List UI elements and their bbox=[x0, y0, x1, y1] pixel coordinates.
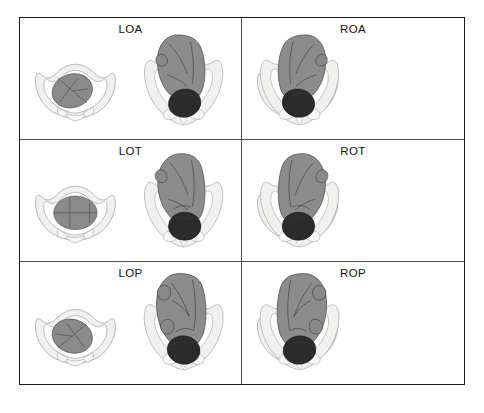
fetal-head-engaged bbox=[168, 212, 200, 240]
pelvic-inlet-view-lot bbox=[29, 171, 122, 248]
fetus-pelvis-diagram bbox=[124, 145, 239, 259]
panel-loa[interactable]: LOA bbox=[20, 18, 242, 140]
fetus-in-pelvis-view-loa bbox=[124, 23, 239, 137]
panel-roa[interactable]: ROA bbox=[242, 18, 464, 140]
pelvic-inlet-diagram bbox=[29, 294, 122, 372]
fetus-in-pelvis-view-lot bbox=[124, 145, 239, 259]
fetus-pelvis-diagram bbox=[244, 267, 359, 382]
pelvic-inlet-view-loa bbox=[29, 49, 122, 126]
fetal-head-inlet bbox=[54, 197, 97, 230]
fetus-pelvis-diagram bbox=[244, 145, 359, 259]
fetus-in-pelvis-view-rot bbox=[244, 145, 359, 259]
fetus-pelvis-diagram bbox=[244, 23, 359, 137]
pelvic-inlet-view-lop bbox=[29, 294, 122, 372]
pelvic-inlet-diagram bbox=[29, 49, 122, 126]
fetal-position-figure: LOA bbox=[19, 17, 465, 385]
fetus-in-pelvis-view-roa bbox=[244, 23, 359, 137]
fetus-in-pelvis-view-rop bbox=[244, 267, 359, 382]
fetus-pelvis-diagram bbox=[124, 23, 239, 137]
panel-rot[interactable]: ROT bbox=[242, 140, 464, 262]
panel-lop[interactable]: LOP bbox=[20, 262, 242, 384]
fetus-in-pelvis-view-lop bbox=[124, 267, 239, 382]
panel-rop[interactable]: ROP bbox=[242, 262, 464, 384]
pelvic-inlet-diagram bbox=[29, 171, 122, 248]
fetal-head-engaged bbox=[282, 212, 314, 240]
panel-lot[interactable]: LOT bbox=[20, 140, 242, 262]
fetus-pelvis-diagram bbox=[124, 267, 239, 382]
